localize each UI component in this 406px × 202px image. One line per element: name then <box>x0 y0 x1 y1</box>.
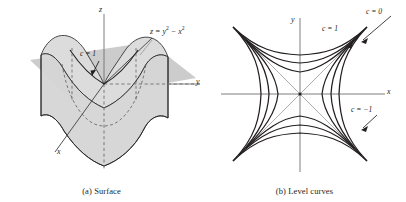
panel-level-curves: y x c = 1 c = 0 c = −1 (b) Level curves <box>203 0 406 202</box>
axis-label-y: y <box>196 78 200 86</box>
trace-level-label: c = 1 <box>80 50 96 58</box>
surface-equation-label: z = y2 − x2 <box>150 26 185 36</box>
origin-point <box>298 92 301 95</box>
caption-panel-b: (b) Level curves <box>203 186 406 196</box>
equation-prefix: z = y <box>150 27 166 36</box>
axis-label-x: x <box>57 148 61 156</box>
level-curves-diagram <box>203 0 406 202</box>
equation-middle: − x <box>169 27 182 36</box>
c0-arrow-shaft <box>363 16 391 40</box>
axis-label-y-b: y <box>291 16 295 24</box>
caption-panel-a: (a) Surface <box>0 186 203 196</box>
level-label-cneg1: c = −1 <box>351 106 372 114</box>
axis-label-x-b: x <box>387 88 391 96</box>
figure-container: z y x z = y2 − x2 c = 1 (a) Surface <box>0 0 406 202</box>
level-label-c0: c = 0 <box>366 8 382 16</box>
level-label-c1: c = 1 <box>322 25 338 33</box>
panel-surface: z y x z = y2 − x2 c = 1 (a) Surface <box>0 0 203 202</box>
equation-exponent-2: 2 <box>182 25 185 31</box>
cneg1-arrow-shaft <box>363 115 377 128</box>
axis-label-z: z <box>99 6 102 14</box>
